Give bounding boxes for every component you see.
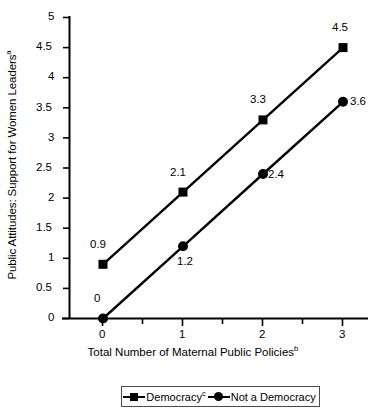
y-tick-label: 5 xyxy=(48,10,54,22)
x-tick-label: 2 xyxy=(259,328,265,340)
data-point-marker xyxy=(259,115,268,124)
data-label: 3.3 xyxy=(250,93,266,105)
x-tick-label: 0 xyxy=(99,328,105,340)
legend-entry-democracy[interactable]: Democracyc xyxy=(123,391,207,403)
x-tick-label: 1 xyxy=(179,328,185,340)
data-point-marker xyxy=(339,43,348,52)
series-democracy-line xyxy=(103,48,343,265)
y-tick-label: 2 xyxy=(48,191,54,203)
data-label: 0.9 xyxy=(90,238,106,250)
y-axis-ticks xyxy=(62,18,69,319)
data-label: 2.1 xyxy=(170,166,186,178)
data-point-marker xyxy=(179,188,188,197)
legend-label-democracy: Democracyc xyxy=(146,391,207,403)
circle-marker-icon xyxy=(208,391,230,402)
y-tick-label: 1.5 xyxy=(36,221,52,233)
series-democracy xyxy=(99,43,348,269)
data-point-marker xyxy=(338,97,348,107)
y-tick-label: 4 xyxy=(48,70,54,82)
data-label: 3.6 xyxy=(350,95,366,107)
legend-superscript: c xyxy=(202,389,206,398)
legend-entry-not-a-democracy[interactable]: Not a Democracy xyxy=(208,391,318,403)
x-axis-title-label: Total Number of Maternal Public Policies xyxy=(88,346,294,358)
data-point-marker xyxy=(178,241,188,251)
chart-figure: Public Attitudes: Support for Women Lead… xyxy=(0,0,386,414)
series-not-a-democracy xyxy=(98,97,348,324)
data-label: 2.4 xyxy=(268,168,284,180)
y-tick-label: 0.5 xyxy=(36,281,52,293)
data-point-marker xyxy=(98,314,108,324)
data-label: 0 xyxy=(94,292,100,304)
data-label: 1.2 xyxy=(177,255,193,267)
legend-label-not-a-democracy: Not a Democracy xyxy=(231,391,318,403)
data-point-marker xyxy=(99,260,108,269)
x-axis-title-superscript: b xyxy=(294,344,298,353)
chart-legend: Democracyc Not a Democracy xyxy=(121,386,320,407)
data-point-marker xyxy=(258,169,268,179)
y-tick-label: 1 xyxy=(48,251,54,263)
series-not-a-democracy-line xyxy=(103,102,343,319)
y-tick-label: 3.5 xyxy=(36,101,52,113)
data-label: 4.5 xyxy=(332,21,348,33)
square-marker-icon xyxy=(123,391,145,402)
y-tick-label: 2.5 xyxy=(36,161,52,173)
x-tick-label: 3 xyxy=(339,328,345,340)
y-tick-label: 0 xyxy=(48,311,54,323)
y-tick-label: 3 xyxy=(48,131,54,143)
x-axis-title: Total Number of Maternal Public Policies… xyxy=(0,346,386,358)
y-tick-label: 4.5 xyxy=(36,40,52,52)
